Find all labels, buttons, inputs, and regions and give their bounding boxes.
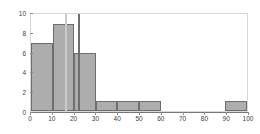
plot-area	[30, 13, 248, 112]
x-axis-tick-label: 30	[92, 115, 99, 123]
reference-lines-layer	[31, 14, 247, 111]
x-axis-tick-label: 90	[223, 115, 230, 123]
x-axis-tick-mark	[52, 112, 53, 115]
x-axis-tick-label: 60	[157, 115, 164, 123]
x-axis-tick-mark	[139, 112, 140, 115]
y-axis-tick-label: 2	[22, 89, 26, 96]
x-axis-tick-mark	[226, 112, 227, 115]
x-axis-tick-mark	[117, 112, 118, 115]
x-axis-tick-mark	[248, 112, 249, 115]
x-axis-tick-label: 10	[48, 115, 55, 123]
y-axis-tick-mark	[30, 72, 33, 73]
x-axis-tick-label: 80	[201, 115, 208, 123]
reference-line-dark	[78, 14, 80, 111]
y-axis-tick-mark	[30, 92, 33, 93]
x-axis-tick-label: 100	[243, 115, 254, 123]
y-axis-tick-mark	[30, 13, 33, 14]
y-axis-tick-mark	[30, 53, 33, 54]
x-axis-tick-label: 0	[28, 115, 32, 123]
reference-line-light	[65, 14, 67, 111]
x-axis-tick-labels: 0102030405060708090100	[0, 115, 260, 125]
y-axis-tick-label: 4	[22, 69, 26, 76]
y-axis-tick-labels: 0246810	[0, 13, 26, 112]
y-axis-tick-label: 10	[19, 10, 26, 17]
x-axis-tick-label: 70	[179, 115, 186, 123]
histogram-figure: 0246810 0102030405060708090100	[0, 0, 260, 134]
x-axis-tick-mark	[30, 112, 31, 115]
x-axis-tick-label: 50	[135, 115, 142, 123]
y-axis-tick-label: 6	[22, 49, 26, 56]
x-axis-tick-mark	[161, 112, 162, 115]
x-axis-tick-mark	[183, 112, 184, 115]
x-axis-tick-mark	[95, 112, 96, 115]
y-axis-tick-label: 8	[22, 29, 26, 36]
y-axis-tick-mark	[30, 33, 33, 34]
x-axis-tick-label: 40	[114, 115, 121, 123]
x-axis-tick-mark	[204, 112, 205, 115]
x-axis-tick-mark	[74, 112, 75, 115]
x-axis-tick-label: 20	[70, 115, 77, 123]
